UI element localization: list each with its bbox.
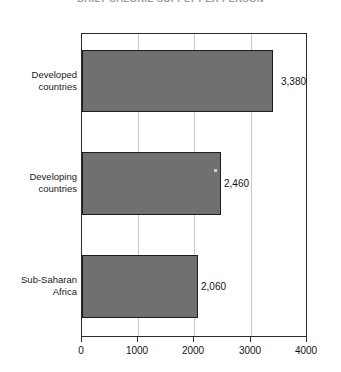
xtick-label-2000: 2000 [163, 345, 223, 356]
bar-developed-countries[interactable] [82, 50, 273, 112]
value-label-developing-countries: 2,460 [224, 178, 249, 189]
category-label-sub-saharan-africa: Sub-SaharanAfrica [0, 274, 77, 297]
xtick-mark-4000 [306, 337, 307, 342]
bar-artifact-speck [214, 169, 217, 172]
xtick-label-0: 0 [51, 345, 111, 356]
xtick-label-4000: 4000 [276, 345, 336, 356]
bar-developing-countries[interactable] [82, 152, 221, 215]
bar-sub-saharan-africa[interactable] [82, 255, 198, 318]
xtick-mark-2000 [193, 337, 194, 342]
xtick-mark-1000 [137, 337, 138, 342]
category-label-developed-countries: Developedcountries [0, 69, 77, 92]
chart-title: DAILY CALORIE SUPPLY PER PERSON [0, 0, 341, 4]
category-label-developing-countries: Developingcountries [0, 171, 77, 194]
xtick-mark-0 [81, 337, 82, 342]
plot-area [81, 33, 307, 337]
value-label-sub-saharan-africa: 2,060 [201, 281, 226, 292]
xtick-label-1000: 1000 [107, 345, 167, 356]
xtick-mark-3000 [250, 337, 251, 342]
xtick-label-3000: 3000 [220, 345, 280, 356]
value-label-developed-countries: 3,380 [281, 76, 306, 87]
